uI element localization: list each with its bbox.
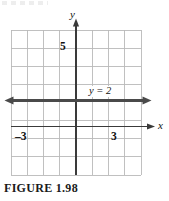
y-axis-label: y — [70, 9, 75, 20]
line-equation-label: y = 2 — [88, 86, 112, 97]
line-left-arrowhead — [5, 97, 14, 105]
x-axis-label: x — [158, 120, 163, 131]
x-axis — [11, 123, 155, 129]
y-axis — [73, 19, 79, 176]
x-tick-label-negative-3: –3 — [15, 131, 27, 143]
x-axis-arrowhead — [147, 123, 155, 129]
figure-caption: FIGURE 1.98 — [4, 181, 78, 196]
line-right-arrowhead — [143, 97, 152, 105]
figure-graph: y x 5 –3 3 y = 2 — [0, 0, 169, 178]
line-y-equals-2 — [5, 97, 152, 105]
x-tick-label-3: 3 — [111, 131, 117, 143]
y-tick-label-5: 5 — [60, 41, 66, 53]
coordinate-plane-svg — [0, 0, 169, 178]
